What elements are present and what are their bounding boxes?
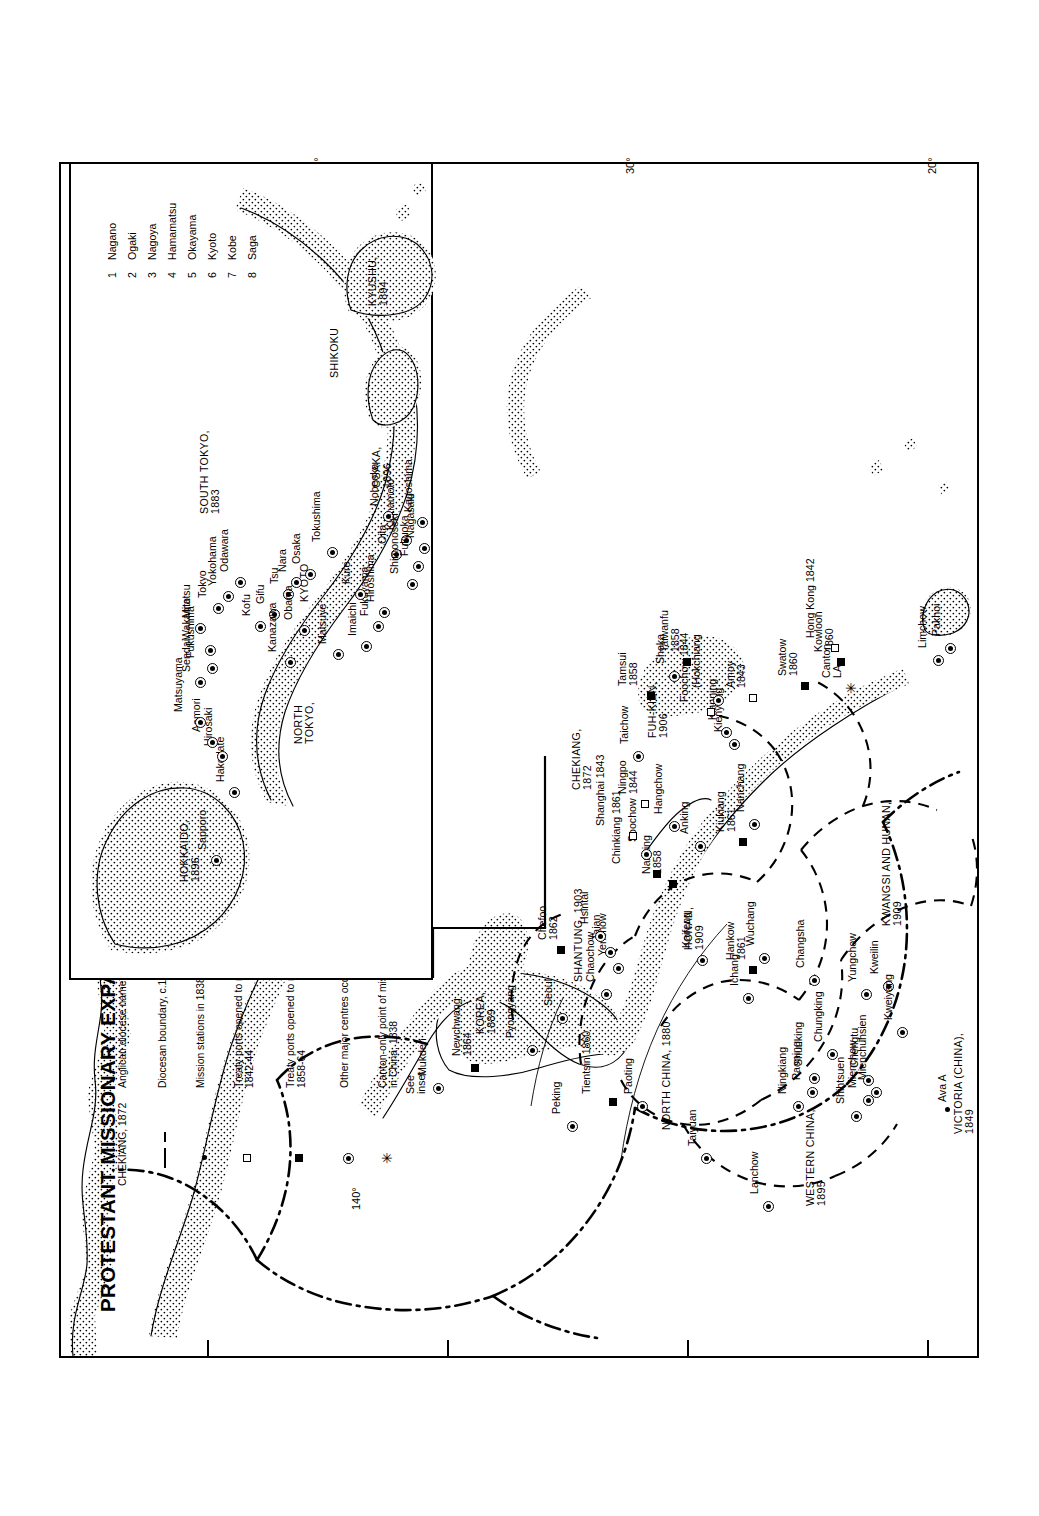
place-symbol-yungchow[interactable] <box>861 989 872 1000</box>
place-symbol-seoul[interactable] <box>557 1013 568 1024</box>
place-symbol-kiukiang[interactable] <box>739 838 747 846</box>
place-symbol-chengtu[interactable] <box>863 1075 874 1086</box>
place-symbol-odawara[interactable] <box>235 577 246 588</box>
graticule-tick <box>687 1340 689 1356</box>
place-symbol-nagasaki[interactable] <box>419 543 430 554</box>
place-label-chinkiang: Chinkiang 1861 <box>611 790 622 864</box>
place-label-yungchow: Yungchow <box>847 933 858 982</box>
place-symbol-yokohama[interactable] <box>223 591 234 602</box>
place-symbol-mukden[interactable] <box>433 1083 444 1094</box>
place-symbol-changsha[interactable] <box>809 975 820 986</box>
inset-num-1-name: Nagano <box>107 223 118 260</box>
place-symbol-shanghai[interactable] <box>629 832 637 840</box>
place-symbol-hakodate[interactable] <box>229 787 240 798</box>
place-symbol-nanchang[interactable] <box>749 819 760 830</box>
place-symbol-taiyuan[interactable] <box>701 1153 712 1164</box>
place-label-odawara: Odawara <box>219 529 230 572</box>
place-symbol-ichang[interactable] <box>743 993 754 1004</box>
place-symbol-pakhoi[interactable] <box>945 643 956 654</box>
place-symbol-chinkiang[interactable] <box>653 870 661 878</box>
place-symbol-mienchuhsien[interactable] <box>871 1087 882 1098</box>
place-symbol-hokchiang[interactable] <box>713 695 724 706</box>
place-symbol-wakamatsu[interactable] <box>205 645 216 656</box>
place-symbol-foochow[interactable] <box>707 708 715 716</box>
place-symbol-sapporo[interactable] <box>211 855 222 866</box>
place-symbol-aomori[interactable] <box>207 737 218 748</box>
place-symbol-yenchow[interactable] <box>613 963 624 974</box>
circled-dot-icon <box>343 1153 354 1164</box>
place-symbol-obama[interactable] <box>299 625 310 636</box>
place-symbol-tokushima[interactable] <box>327 547 338 558</box>
place-label-changsha: Changsha <box>795 920 806 968</box>
place-symbol-kienyang[interactable] <box>729 739 740 750</box>
place-label-chengtu: Chengtu <box>849 1028 860 1068</box>
place-symbol-pyongyang[interactable] <box>527 1045 538 1056</box>
place-symbol-taian[interactable] <box>605 947 616 958</box>
place-symbol-hiroshima[interactable] <box>379 607 390 618</box>
place-symbol-shunking[interactable] <box>809 1073 820 1084</box>
place-symbol-hirosaki[interactable] <box>217 751 228 762</box>
place-symbol-ningkiang[interactable] <box>793 1101 804 1112</box>
place-label-swatow: Swatow 1860 <box>777 639 800 676</box>
place-symbol-fukuoka[interactable] <box>413 561 424 572</box>
place-symbol-limchow[interactable] <box>933 655 944 666</box>
place-symbol-imaichi[interactable] <box>361 641 372 652</box>
inset-diocese-north-tokyo: NORTH TOKYO, <box>293 702 316 744</box>
place-symbol-taiwanfu[interactable] <box>683 658 691 666</box>
place-symbol-paoning[interactable] <box>807 1087 818 1098</box>
place-label-anking: Anking <box>679 802 690 834</box>
place-symbol-amoy[interactable] <box>749 694 757 702</box>
inset-num-2: 2 <box>127 272 138 278</box>
place-symbol-tokyo[interactable] <box>213 603 224 614</box>
place-symbol-hangchow[interactable] <box>669 821 680 832</box>
place-symbol-fukuyama[interactable] <box>373 621 384 632</box>
place-symbol-mienchow[interactable] <box>863 1095 874 1106</box>
place-symbol-kaifeng[interactable] <box>697 955 708 966</box>
place-symbol-osaka[interactable] <box>305 569 316 580</box>
place-symbol-paoting[interactable] <box>637 1101 648 1112</box>
inset-num-5-name: Okayama <box>187 215 198 260</box>
place-symbol-swatow[interactable] <box>801 682 809 690</box>
place-symbol-sendai[interactable] <box>195 677 206 688</box>
place-symbol-shoka[interactable] <box>669 671 680 682</box>
place-symbol-nanking[interactable] <box>669 880 677 888</box>
diocese-north-china: NORTH CHINA, 1880 <box>661 1021 672 1130</box>
place-symbol-tientsin[interactable] <box>609 1098 617 1106</box>
place-symbol-lanchow[interactable] <box>763 1201 774 1212</box>
open-square-icon <box>243 1154 251 1162</box>
place-symbol-kure[interactable] <box>355 589 366 600</box>
place-symbol-hankow[interactable] <box>749 966 757 974</box>
place-symbol-anking[interactable] <box>695 841 706 852</box>
place-symbol-shimonoseki[interactable] <box>407 579 418 590</box>
place-label-tamsui: Tamsui 1858 <box>617 652 640 686</box>
place-symbol-kofu[interactable] <box>255 621 266 632</box>
place-symbol-matsuyama[interactable] <box>195 717 206 728</box>
place-symbol-kianning[interactable] <box>721 727 732 738</box>
place-symbol-tamsui[interactable] <box>647 692 655 700</box>
place-symbol-shihtsuen[interactable] <box>851 1111 862 1122</box>
place-symbol-chefoo[interactable] <box>557 946 565 954</box>
place-symbol-kanazawa[interactable] <box>285 657 296 668</box>
place-symbol-wuchang[interactable] <box>759 953 770 964</box>
place-symbol-canton[interactable]: ✳ <box>847 683 858 694</box>
inset-num-1: 1 <box>107 272 118 278</box>
diocese-western-china: WESTERN CHINA, 1895 <box>805 1109 828 1206</box>
place-symbol-hsintai[interactable] <box>595 931 606 942</box>
place-symbol-kagoshima[interactable] <box>417 517 428 528</box>
place-symbol-newchwang[interactable] <box>471 1064 479 1072</box>
place-symbol-fukushima[interactable] <box>207 663 218 674</box>
place-symbol-matsuye[interactable] <box>333 649 344 660</box>
place-symbol-chaochow[interactable] <box>601 989 612 1000</box>
place-label-pakhoi: Pakhoi <box>931 604 942 636</box>
place-symbol-ningpo[interactable] <box>641 800 649 808</box>
place-symbol-soochow[interactable] <box>641 849 652 860</box>
place-label-peking: Peking <box>551 1082 562 1114</box>
place-symbol-taichow[interactable] <box>633 751 644 762</box>
place-symbol-peking[interactable] <box>567 1121 578 1132</box>
place-label-nara: Nara <box>277 549 288 572</box>
place-symbol-ava[interactable] <box>945 1107 950 1112</box>
place-label-shihtsuen: Shihtsuen <box>835 1057 846 1104</box>
place-symbol-chungking[interactable] <box>827 1049 838 1060</box>
place-symbol-mito[interactable] <box>195 623 206 634</box>
place-symbol-kweiyang[interactable] <box>897 1027 908 1038</box>
